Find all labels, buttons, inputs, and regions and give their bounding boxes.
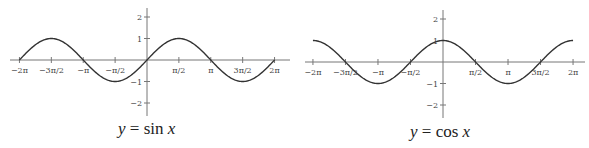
x-tick-label: −2π <box>304 68 321 77</box>
y-tick-label: −1 <box>426 80 438 89</box>
caption-lhs: y <box>410 122 418 141</box>
cosine-chart-canvas: −2π−3π/2−π−π/2π/2π3π/22π21−1−2 <box>0 0 589 148</box>
y-tick-label: 2 <box>433 15 438 24</box>
x-tick-label: π <box>505 68 510 77</box>
x-tick-label: 2π <box>568 68 578 77</box>
x-tick-label: π/2 <box>469 68 482 77</box>
caption-eq: = <box>418 122 436 141</box>
y-tick-label: −2 <box>426 101 438 110</box>
cosine-plot: −2π−3π/2−π−π/2π/2π3π/22π21−1−2 <box>0 0 589 148</box>
caption-var: x <box>463 122 471 141</box>
cosine-caption: y = cos x <box>410 122 470 142</box>
caption-fn: cos <box>436 122 463 141</box>
x-tick-label: −3π/2 <box>333 68 358 77</box>
x-tick-label: −π <box>372 68 384 77</box>
